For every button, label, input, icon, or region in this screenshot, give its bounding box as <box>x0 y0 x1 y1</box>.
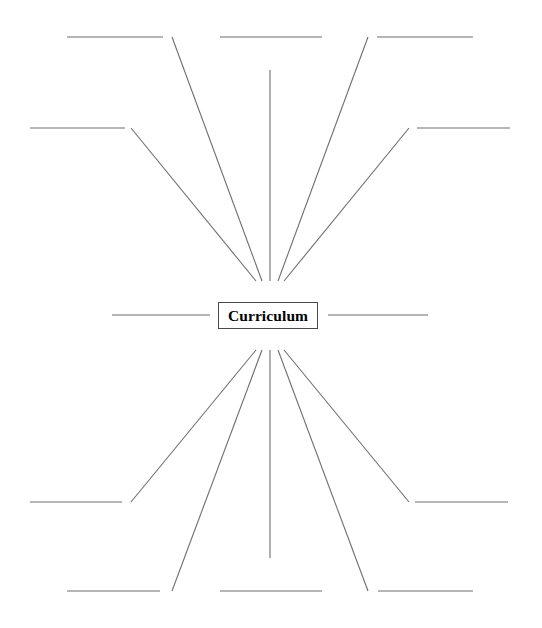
center-node-label: Curriculum <box>228 308 308 324</box>
spoke-line-lower-right-inner <box>284 350 409 502</box>
spoke-line-lower-left-inner <box>131 350 256 502</box>
spoke-line-upper-left-outer <box>172 37 262 281</box>
spoke-line-lower-right-outer <box>278 350 368 591</box>
center-node[interactable]: Curriculum <box>218 302 318 329</box>
spoke-line-lower-left-outer <box>172 350 262 591</box>
spoke-line-upper-right-outer <box>278 37 368 281</box>
concept-map-canvas: Curriculum <box>0 0 542 628</box>
spoke-line-upper-right-inner <box>284 128 409 281</box>
spoke-line-upper-left-inner <box>131 128 256 281</box>
